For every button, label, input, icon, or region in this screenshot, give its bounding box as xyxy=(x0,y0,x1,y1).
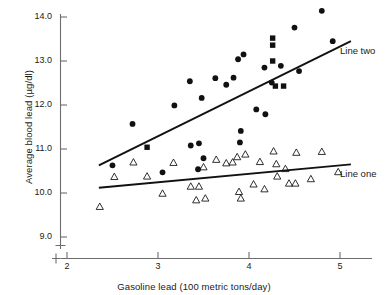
axes xyxy=(52,14,372,264)
data-point-circle xyxy=(199,95,205,101)
data-point-triangle xyxy=(195,183,202,189)
y-tick-label: 14.0 xyxy=(18,11,52,21)
x-tick-label: 5 xyxy=(330,261,350,271)
data-point-triangle xyxy=(202,195,209,201)
x-axis-ticks xyxy=(67,252,340,259)
data-point-triangle xyxy=(250,181,257,187)
data-point-circle xyxy=(292,25,298,31)
data-point-triangle xyxy=(285,180,292,186)
plot-area xyxy=(0,0,388,295)
data-point-circle xyxy=(262,111,268,117)
series-2 xyxy=(110,8,336,175)
data-point-triangle xyxy=(292,180,299,186)
data-series-group xyxy=(96,8,342,210)
series-label-line-one: Line one xyxy=(340,168,376,179)
data-point-square xyxy=(281,83,286,88)
data-point-circle xyxy=(223,82,229,88)
data-point-circle xyxy=(187,78,193,84)
data-point-triangle xyxy=(256,158,263,164)
data-point-triangle xyxy=(261,185,268,191)
data-point-triangle xyxy=(96,203,103,209)
fit-line-2 xyxy=(99,41,351,165)
data-point-triangle xyxy=(242,151,249,157)
data-point-triangle xyxy=(307,175,314,181)
data-point-triangle xyxy=(187,183,194,189)
x-tick-label: 3 xyxy=(148,261,168,271)
scatter-chart: Average blood lead (µg/dl) Gasoline lead… xyxy=(0,0,388,295)
data-point-circle xyxy=(196,140,202,146)
data-point-triangle xyxy=(293,149,300,155)
y-axis-title-wrapper: Average blood lead (µg/dl) xyxy=(18,12,36,242)
data-point-circle xyxy=(195,166,201,172)
data-point-square xyxy=(270,35,275,40)
x-axis-title: Gasoline lead (100 metric tons/day) xyxy=(0,281,388,292)
data-point-circle xyxy=(130,121,136,127)
data-point-circle xyxy=(201,155,207,161)
data-point-circle xyxy=(171,103,177,109)
data-point-triangle xyxy=(234,153,241,159)
data-point-triangle xyxy=(143,173,150,179)
data-point-circle xyxy=(160,169,166,175)
data-point-triangle xyxy=(193,196,200,202)
data-point-triangle xyxy=(111,173,118,179)
data-point-circle xyxy=(212,75,218,81)
series-label-line-two: Line two xyxy=(340,45,375,56)
data-point-circle xyxy=(296,68,302,74)
data-point-triangle xyxy=(200,163,207,169)
data-point-triangle xyxy=(159,190,166,196)
y-tick-label: 10.0 xyxy=(18,187,52,197)
fit-line-1 xyxy=(99,164,351,187)
data-point-circle xyxy=(231,75,237,81)
y-axis-ticks xyxy=(61,17,68,237)
x-tick-label: 2 xyxy=(57,261,77,271)
x-tick-label: 4 xyxy=(239,261,259,271)
y-axis-title: Average blood lead (µg/dl) xyxy=(23,70,34,184)
data-point-circle xyxy=(238,128,244,134)
data-point-circle xyxy=(110,162,116,168)
y-axis-break-icon xyxy=(56,241,66,249)
data-point-triangle xyxy=(170,159,177,165)
data-point-circle xyxy=(253,107,259,113)
data-point-circle xyxy=(278,63,284,69)
data-point-triangle xyxy=(130,159,137,165)
data-point-square xyxy=(270,58,275,63)
data-point-triangle xyxy=(273,160,280,166)
y-tick-label: 13.0 xyxy=(18,55,52,65)
data-point-circle xyxy=(188,143,194,149)
data-point-square xyxy=(270,42,275,47)
data-point-triangle xyxy=(235,188,242,194)
data-point-circle xyxy=(319,8,325,14)
data-point-circle xyxy=(241,52,247,58)
data-point-triangle xyxy=(274,173,281,179)
data-point-circle xyxy=(237,140,243,146)
series-1 xyxy=(96,148,342,210)
y-tick-label: 11.0 xyxy=(18,143,52,153)
data-point-triangle xyxy=(237,195,244,201)
data-point-circle xyxy=(262,65,268,71)
y-tick-label: 9.0 xyxy=(18,231,52,241)
data-point-triangle xyxy=(270,148,277,154)
data-point-circle xyxy=(235,56,241,62)
data-point-circle xyxy=(330,38,336,44)
y-tick-label: 12.0 xyxy=(18,99,52,109)
data-point-triangle xyxy=(213,156,220,162)
data-point-square xyxy=(144,145,149,150)
data-point-triangle xyxy=(318,148,325,154)
data-point-square xyxy=(273,83,278,88)
